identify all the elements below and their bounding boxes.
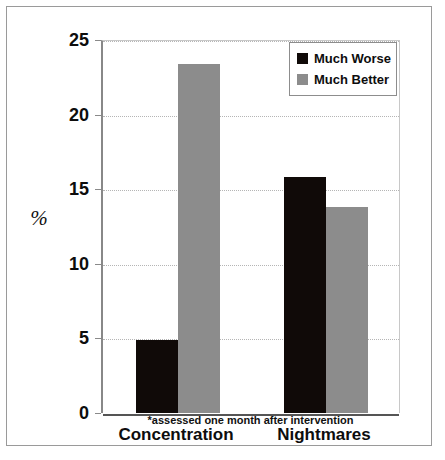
- y-tick-label-15: 15: [49, 180, 89, 198]
- legend-label-much-worse: Much Worse: [314, 52, 391, 65]
- legend-label-much-better: Much Better: [314, 73, 389, 86]
- figure-page: % 0510152025 Much Worse Much Better *ass…: [0, 0, 445, 460]
- bar-concentration-much-worse: [136, 340, 178, 413]
- bar-nightmares-much-worse: [284, 177, 326, 413]
- y-tick-label-5: 5: [49, 329, 89, 347]
- gray-square-swatch-icon: [297, 74, 308, 85]
- category-label-nightmares: Nightmares: [234, 426, 414, 443]
- bar-nightmares-much-better: [326, 207, 368, 413]
- plot-inner: [103, 41, 399, 413]
- gridline-15: [103, 190, 399, 191]
- legend-item-much-worse: Much Worse: [297, 48, 390, 69]
- y-tick-label-0: 0: [49, 404, 89, 422]
- black-square-swatch-icon: [297, 53, 308, 64]
- y-axis-title: %: [18, 206, 60, 231]
- y-tick-label-20: 20: [49, 106, 89, 124]
- y-tick-label-25: 25: [49, 31, 89, 49]
- y-axis-tick-group: 0510152025: [55, 40, 101, 413]
- legend-item-much-better: Much Better: [297, 69, 390, 90]
- gridline-20: [103, 116, 399, 117]
- chart-legend: Much Worse Much Better: [289, 42, 397, 96]
- y-tick-label-10: 10: [49, 255, 89, 273]
- bar-concentration-much-better: [178, 64, 220, 413]
